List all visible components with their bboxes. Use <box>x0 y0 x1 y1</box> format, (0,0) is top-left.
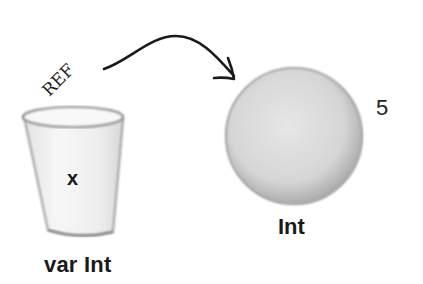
object-value-label: 5 <box>376 95 388 121</box>
object-type-label: Int <box>278 214 305 240</box>
ball-icon <box>226 68 362 204</box>
curved-arrow-icon <box>104 36 234 79</box>
variable-declaration-label: var Int <box>44 252 111 278</box>
variable-name: x <box>67 167 78 190</box>
diagram-canvas <box>0 0 423 284</box>
